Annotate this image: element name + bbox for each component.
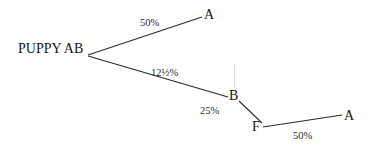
node-f: F [252,120,260,134]
edge-label-b-to-f: 25% [200,106,219,117]
pedigree-diagram [0,0,371,150]
scan-artifact-line [234,64,235,88]
edge-label-f-to-a-bottom: 50% [293,131,312,142]
edge-f-to-a-bottom [263,115,342,127]
edge-label-root-to-a-top: 50% [140,18,159,29]
edge-label-root-to-b: 12½% [151,68,178,79]
node-b: B [229,89,238,103]
node-a-top: A [204,8,214,22]
node-root-puppy-ab: PUPPY AB [18,42,83,56]
node-a-bottom: A [344,109,354,123]
